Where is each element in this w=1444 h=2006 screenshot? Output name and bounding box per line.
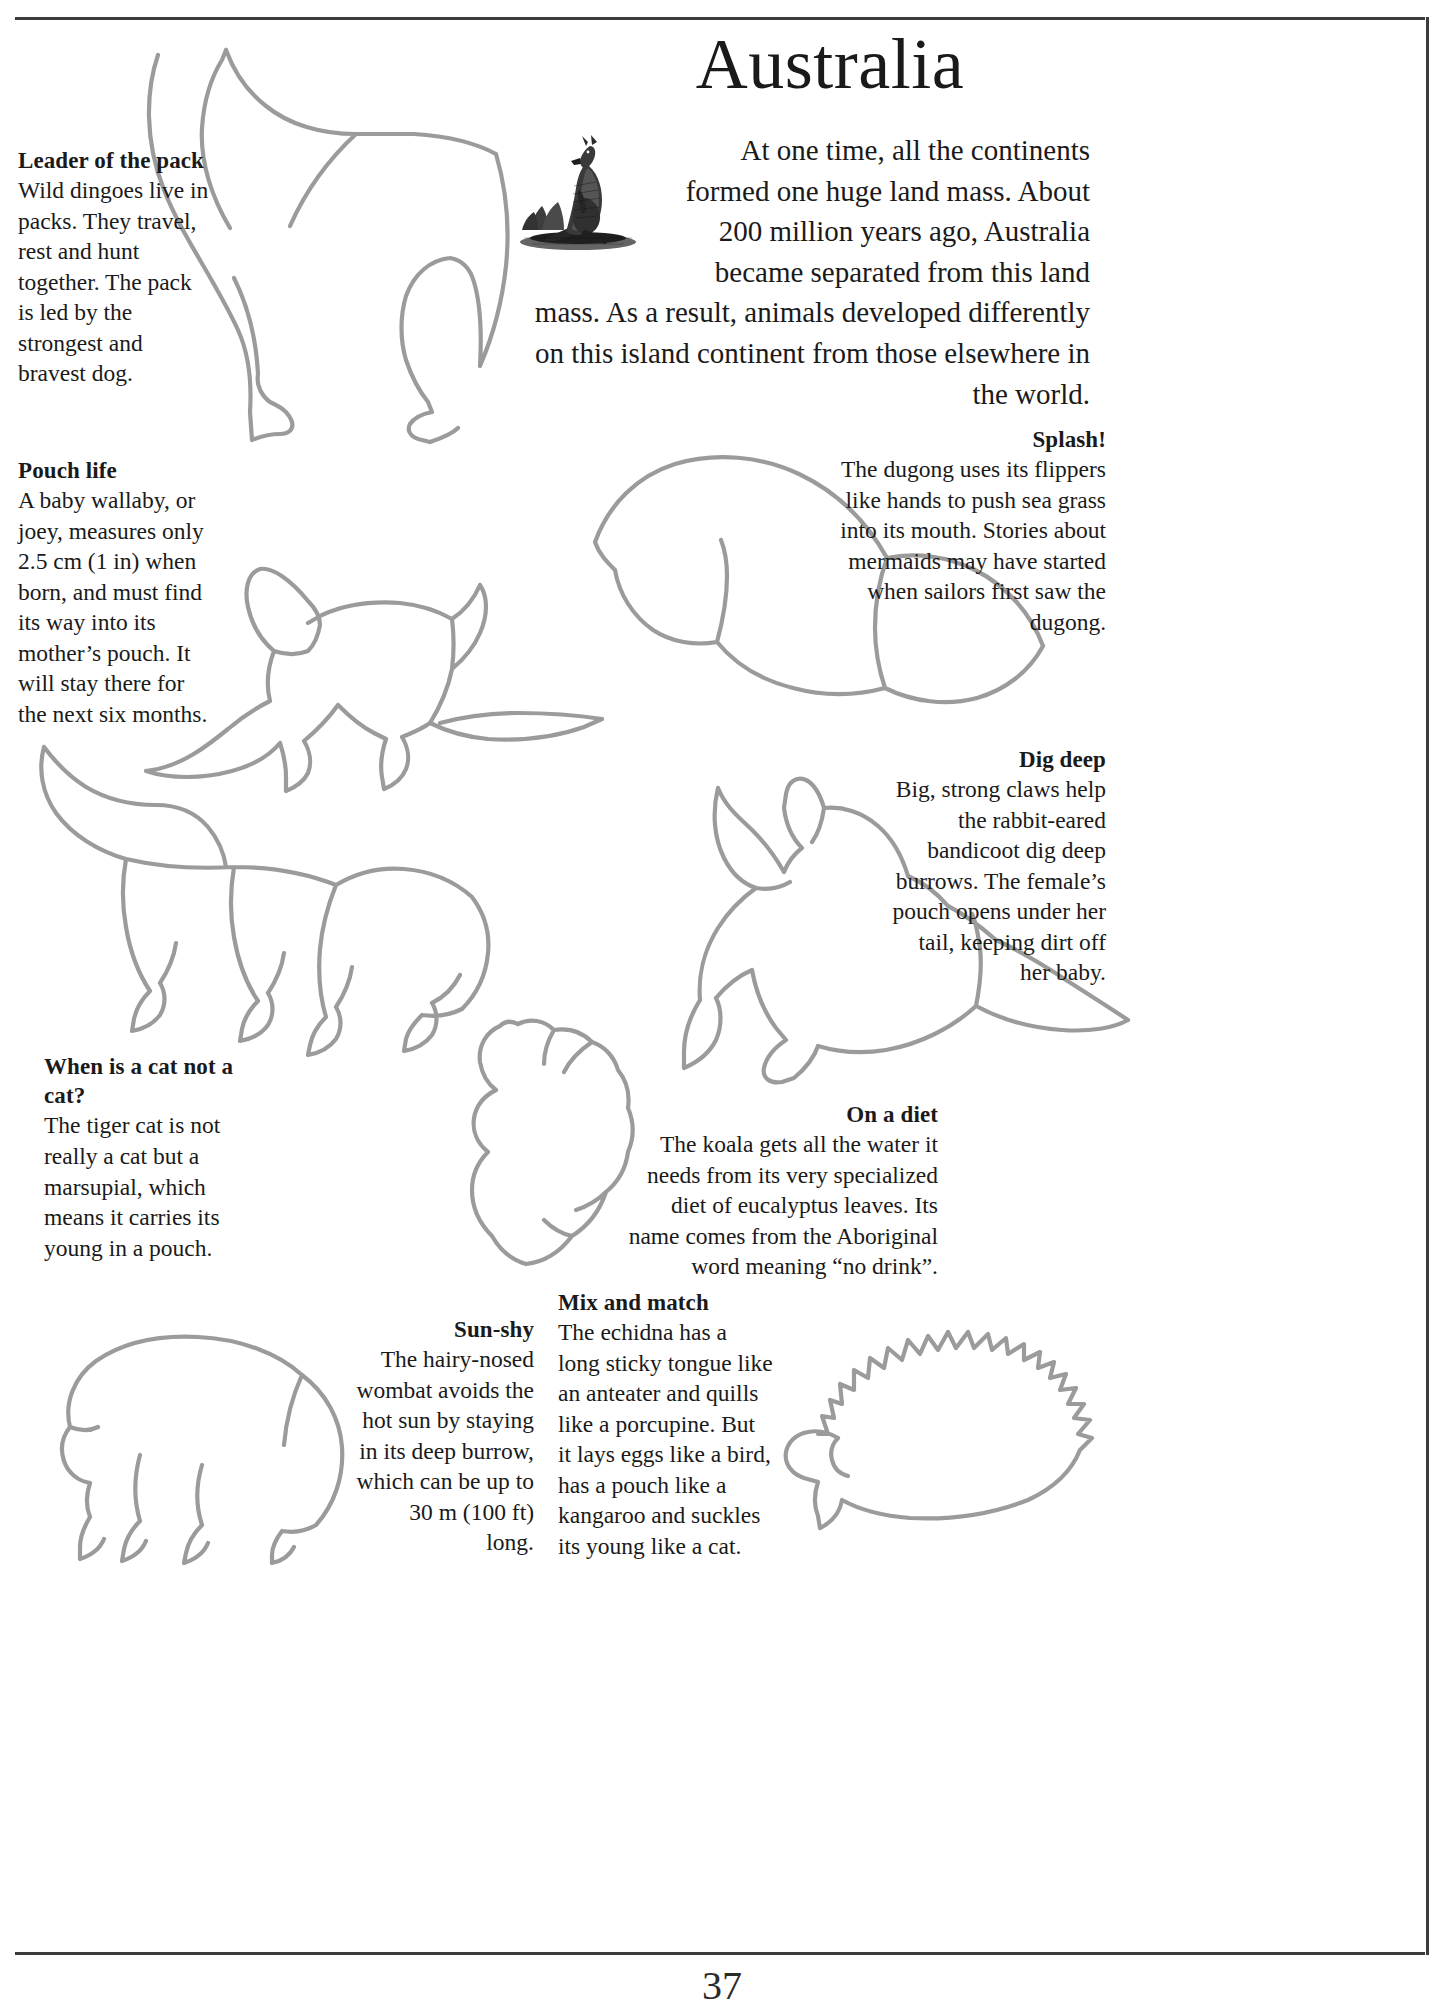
fact-heading-mix-and-match: Mix and match — [558, 1288, 774, 1317]
fact-heading-pouch-life: Pouch life — [18, 456, 210, 485]
fact-heading-leader-of-the-pack: Leader of the pack — [18, 146, 210, 175]
fact-block-mix-and-match: Mix and match The echidna has a long sti… — [558, 1288, 774, 1562]
fact-body-dig-deep: Big, strong claws help the rabbit-eared … — [886, 774, 1106, 988]
fact-block-sun-shy: Sun-shy The hairy-nosed wombat avoids th… — [356, 1315, 534, 1558]
fact-block-dig-deep: Dig deep Big, strong claws help the rabb… — [886, 745, 1106, 988]
fact-body-pouch-life: A baby wallaby, or joey, measures only 2… — [18, 485, 210, 729]
fact-body-sun-shy: The hairy-nosed wombat avoids the hot su… — [356, 1344, 534, 1558]
intro-paragraph-block: At one time, all the continents formed o… — [512, 130, 1090, 414]
book-page: Australia — [0, 0, 1444, 2006]
fact-block-on-a-diet: On a diet The koala gets all the water i… — [616, 1100, 938, 1282]
fact-body-leader-of-the-pack: Wild dingoes live in packs. They travel,… — [18, 175, 210, 389]
fact-block-splash: Splash! The dugong uses its flippers lik… — [806, 425, 1106, 637]
fact-heading-splash: Splash! — [806, 425, 1106, 454]
page-frame-top-rule — [15, 17, 1425, 20]
fact-heading-sun-shy: Sun-shy — [356, 1315, 534, 1344]
fact-body-on-a-diet: The koala gets all the water it needs fr… — [616, 1129, 938, 1282]
tiger-cat-outline-drawing — [30, 735, 520, 1065]
page-title: Australia — [530, 28, 1130, 100]
fact-block-leader-of-the-pack: Leader of the pack Wild dingoes live in … — [18, 146, 210, 389]
page-frame-right-rule — [1426, 17, 1429, 1955]
fact-heading-on-a-diet: On a diet — [616, 1100, 938, 1129]
fact-heading-dig-deep: Dig deep — [886, 745, 1106, 774]
kangaroo-engraving-icon — [512, 134, 640, 256]
page-number: 37 — [0, 1962, 1444, 2006]
fact-block-when-is-a-cat-not-a-cat: When is a cat not a cat? The tiger cat i… — [44, 1052, 244, 1263]
fact-body-when-is-a-cat-not-a-cat: The tiger cat is not really a cat but a … — [44, 1110, 244, 1263]
fact-body-mix-and-match: The echidna has a long sticky tongue lik… — [558, 1317, 774, 1561]
fact-heading-when-is-a-cat-not-a-cat: When is a cat not a cat? — [44, 1052, 244, 1110]
wombat-outline-drawing — [40, 1315, 370, 1565]
page-frame-bottom-rule — [15, 1952, 1425, 1955]
fact-block-pouch-life: Pouch life A baby wallaby, or joey, meas… — [18, 456, 210, 730]
echidna-outline-drawing — [780, 1310, 1100, 1560]
fact-body-splash: The dugong uses its flippers like hands … — [806, 454, 1106, 637]
